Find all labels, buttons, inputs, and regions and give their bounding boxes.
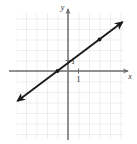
x-tick-label-1: 1 xyxy=(77,75,81,84)
y-axis-label: y xyxy=(60,3,65,12)
graph-canvas: y x 1 1 xyxy=(0,0,137,144)
coordinate-graph: y x 1 1 xyxy=(0,0,137,144)
y-tick-label-1: 1 xyxy=(71,57,75,66)
x-axis-label: x xyxy=(127,72,132,81)
line-point-x-intercept xyxy=(56,69,60,73)
line-point-second xyxy=(98,38,102,42)
